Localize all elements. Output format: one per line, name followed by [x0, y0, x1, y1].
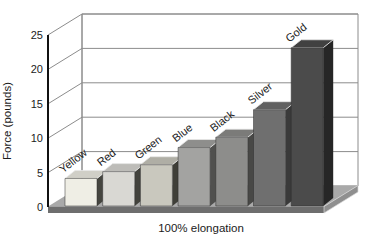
y-tick-label-5: 5: [37, 167, 43, 179]
y-tick-label-15: 15: [31, 98, 43, 110]
x-axis-title: 100% elongation: [158, 222, 244, 234]
force-elongation-3d-bar-chart: YellowRedGreenBlueBlackSilverGold0510152…: [0, 0, 377, 241]
bar-front-green: [140, 165, 172, 206]
bar-side-gold: [323, 40, 333, 206]
bar-front-black: [216, 137, 248, 206]
bar-front-gold: [291, 48, 323, 206]
floor-front: [48, 207, 324, 214]
bar-front-silver: [254, 110, 286, 206]
bar-front-blue: [178, 148, 210, 206]
y-tick-label-10: 10: [31, 132, 43, 144]
plot-area: YellowRedGreenBlueBlackSilverGold0510152…: [31, 14, 358, 213]
y-axis-title: Force (pounds): [1, 82, 13, 160]
y-tick-label-0: 0: [37, 201, 43, 213]
y-tick-label-25: 25: [31, 29, 43, 41]
bar-front-yellow: [65, 178, 97, 206]
chart-figure: YellowRedGreenBlueBlackSilverGold0510152…: [0, 0, 377, 241]
bar-front-red: [103, 172, 135, 206]
y-tick-label-20: 20: [31, 63, 43, 75]
